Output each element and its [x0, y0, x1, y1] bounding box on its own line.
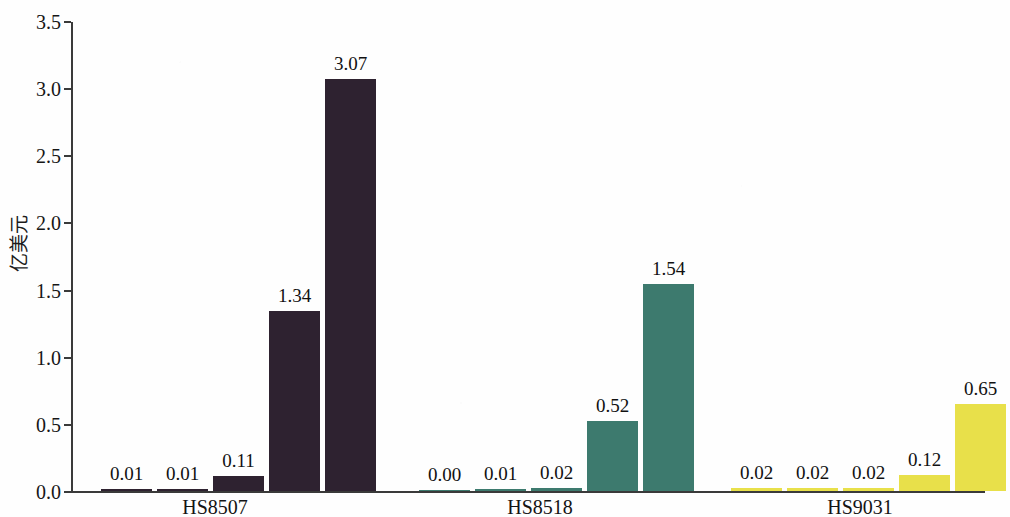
bar [101, 489, 152, 492]
bar [213, 476, 264, 491]
bar-value-label: 0.02 [521, 463, 592, 483]
bar-value-label: 0.52 [577, 396, 648, 416]
bar-value-label: 1.54 [633, 259, 704, 279]
y-tick-mark [64, 21, 71, 23]
bar [643, 284, 694, 491]
y-axis-label: 亿美元 [9, 195, 31, 291]
y-tick-mark [64, 155, 71, 157]
y-tick-mark [64, 88, 71, 90]
bar [157, 489, 208, 492]
bar-value-label: 0.65 [945, 379, 1010, 399]
y-tick-mark [64, 491, 71, 493]
y-axis-line [71, 22, 73, 492]
bar [899, 475, 950, 491]
y-tick-mark [64, 424, 71, 426]
bar [955, 404, 1006, 491]
y-tick-mark [64, 357, 71, 359]
bar-value-label: 0.11 [203, 451, 274, 471]
bar [419, 490, 470, 492]
y-tick-mark [64, 290, 71, 292]
y-tick-mark [64, 222, 71, 224]
bar [531, 488, 582, 491]
plot-area: 0.00.51.01.52.02.53.03.5 0.010.010.111.3… [71, 22, 985, 492]
x-axis-line [71, 491, 985, 493]
bar-value-label: 3.07 [315, 54, 386, 74]
bar [731, 488, 782, 491]
bar [787, 488, 838, 491]
x-group-label: HS8507 [145, 496, 285, 517]
bar [325, 79, 376, 491]
x-group-label: HS8518 [470, 496, 610, 517]
bar [587, 421, 638, 491]
bar [475, 489, 526, 492]
bar-value-label: 1.34 [259, 286, 330, 306]
x-group-label: HS9031 [790, 496, 930, 517]
bar [843, 488, 894, 491]
bar [269, 311, 320, 491]
bar-value-label: 0.12 [889, 450, 960, 470]
